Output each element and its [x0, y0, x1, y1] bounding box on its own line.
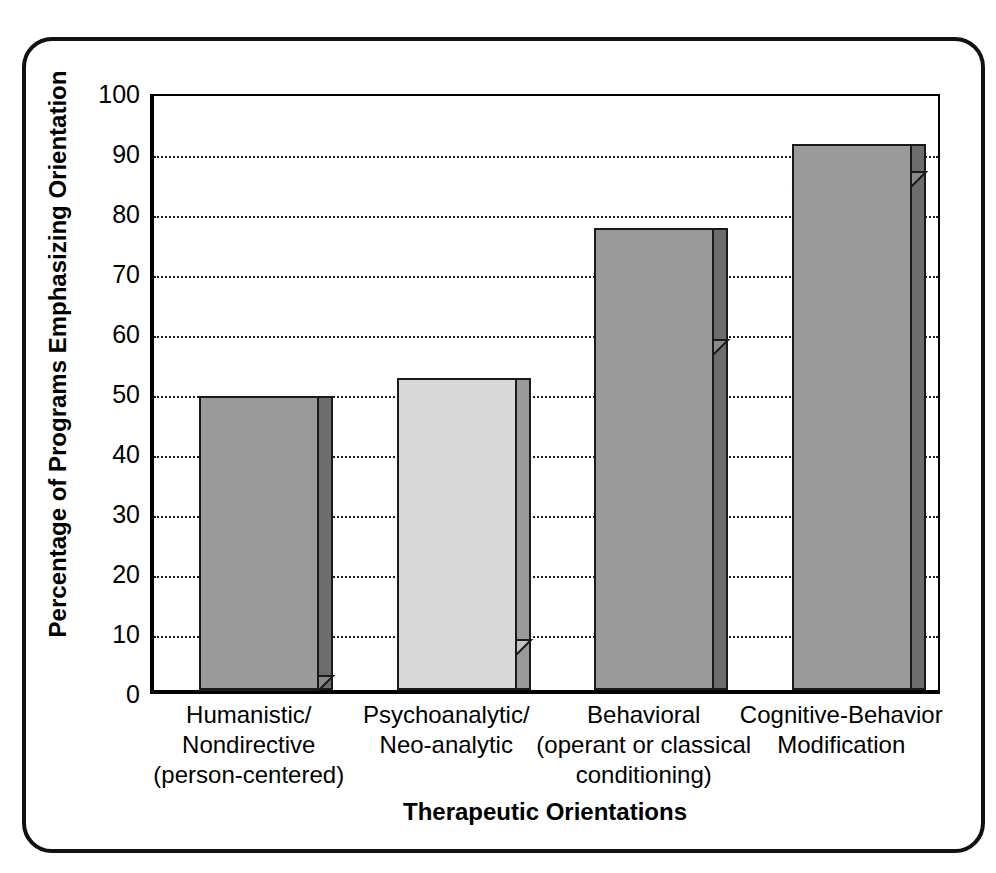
x-axis-category-label-line: conditioning) — [525, 760, 763, 790]
bar-front-face — [397, 378, 517, 690]
y-axis-tick-label: 20 — [80, 562, 140, 587]
y-axis-title: Percentage of Programs Emphasizing Orien… — [44, 64, 72, 644]
y-axis-tick-label: 60 — [80, 322, 140, 347]
bar-front-face — [594, 228, 714, 690]
bar-side-face — [714, 228, 728, 690]
y-axis-tick-label: 100 — [80, 82, 140, 107]
y-axis-tick-labels: 0102030405060708090100 — [76, 94, 140, 694]
bar[interactable] — [792, 130, 926, 690]
y-axis-tick-label: 30 — [80, 502, 140, 527]
x-axis-category-label-line: Cognitive-Behavior — [723, 700, 961, 730]
bar[interactable] — [199, 382, 333, 690]
bar[interactable] — [594, 214, 728, 690]
bar-chart-figure: Percentage of Programs Emphasizing Orien… — [0, 0, 996, 873]
y-axis-tick-label: 90 — [80, 142, 140, 167]
bar[interactable] — [397, 364, 531, 690]
x-axis-category-label-line: (person-centered) — [130, 760, 368, 790]
x-axis-category-labels: Humanistic/Nondirective(person-centered)… — [150, 700, 940, 790]
bar-front-face — [792, 144, 912, 690]
y-axis-tick-label: 40 — [80, 442, 140, 467]
y-axis-tick-label: 70 — [80, 262, 140, 287]
bar-side-face — [912, 144, 926, 690]
bar-front-face — [199, 396, 319, 690]
y-axis-tick-label: 10 — [80, 622, 140, 647]
bar-side-face — [319, 396, 333, 690]
plot-area — [150, 94, 940, 694]
y-axis-tick-label: 50 — [80, 382, 140, 407]
x-axis-category-label-line: Modification — [723, 730, 961, 760]
x-axis-title: Therapeutic Orientations — [150, 798, 940, 826]
y-axis-tick-label: 80 — [80, 202, 140, 227]
x-axis-category-label: Cognitive-BehaviorModification — [723, 700, 961, 760]
